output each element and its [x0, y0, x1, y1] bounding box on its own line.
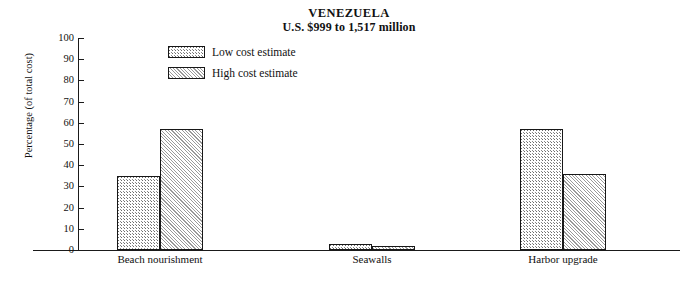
y-tick-mark: [78, 102, 84, 103]
category-label: Seawalls: [282, 253, 462, 265]
y-tick-mark: [78, 208, 84, 209]
legend-label-high: High cost estimate: [212, 67, 298, 79]
bar: [372, 246, 415, 250]
y-tick-label: 80: [48, 75, 74, 85]
category-label: Beach nourishment: [70, 253, 250, 265]
y-tick-label: 20: [48, 203, 74, 213]
y-tick-mark: [78, 165, 84, 166]
y-tick-mark: [78, 80, 84, 81]
y-tick-mark: [78, 123, 84, 124]
y-tick-label: 70: [48, 97, 74, 107]
bar-chart: VENEZUELA U.S. $999 to 1,517 million Per…: [0, 0, 698, 290]
legend-item-high: High cost estimate: [168, 65, 298, 80]
bar: [329, 244, 372, 250]
bar: [160, 129, 203, 250]
y-tick-mark: [78, 229, 84, 230]
bar: [563, 174, 606, 250]
x-axis-line: [33, 250, 680, 251]
y-tick-label: 60: [48, 118, 74, 128]
y-tick-mark: [78, 250, 84, 251]
y-tick-mark: [78, 38, 84, 39]
chart-legend: Low cost estimate High cost estimate: [168, 44, 298, 86]
y-tick-label: 10: [48, 224, 74, 234]
y-tick-mark: [78, 144, 84, 145]
y-tick-label: 50: [48, 139, 74, 149]
chart-title-block: VENEZUELA U.S. $999 to 1,517 million: [0, 6, 698, 35]
chart-title: VENEZUELA: [0, 6, 698, 20]
y-axis-title: Percentage (of total cost): [23, 31, 34, 181]
legend-item-low: Low cost estimate: [168, 44, 298, 59]
bar: [520, 129, 563, 250]
legend-swatch-low-icon: [168, 46, 205, 58]
y-tick-label: 30: [48, 181, 74, 191]
y-tick-label: 40: [48, 160, 74, 170]
legend-label-low: Low cost estimate: [212, 46, 296, 58]
category-label: Harbor upgrade: [473, 253, 653, 265]
bar: [117, 176, 160, 250]
y-tick-mark: [78, 59, 84, 60]
y-tick-label: 90: [48, 54, 74, 64]
y-tick-mark: [78, 186, 84, 187]
legend-swatch-high-icon: [168, 67, 205, 79]
chart-subtitle: U.S. $999 to 1,517 million: [0, 21, 698, 35]
y-tick-label: 100: [48, 33, 74, 43]
